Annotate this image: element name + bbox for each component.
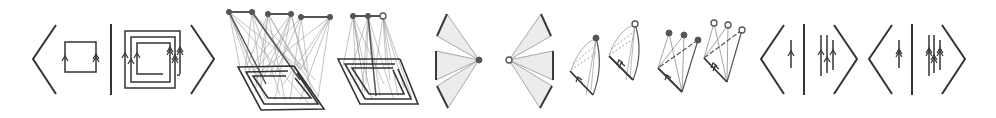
tripod-legs [704, 23, 728, 82]
panel-tripod-filled [658, 30, 701, 92]
right-angle-bracket [834, 25, 857, 94]
tripod-leg-strong [682, 40, 698, 92]
vertex-filled [288, 11, 293, 16]
diagram-canvas [0, 0, 996, 118]
panel-lifted-spiral-3 [226, 9, 332, 110]
panel-bracket-loops [33, 24, 214, 95]
left-angle-bracket [869, 25, 892, 94]
cone-generator [626, 24, 635, 80]
panel-tripod-open [704, 20, 745, 82]
left-angle-bracket [33, 25, 56, 94]
panel-lifted-spiral-2 [338, 13, 418, 104]
projection-lines [229, 12, 330, 105]
vertex-filled [476, 57, 482, 63]
vertex-filled [681, 32, 687, 38]
panel-bracket-lines-double [869, 24, 965, 95]
cone-generator [586, 38, 596, 95]
single-loop [65, 42, 96, 72]
vertex-filled [666, 30, 672, 36]
vertex-filled [265, 11, 270, 16]
tripod-leg-strong [727, 30, 742, 82]
left-angle-bracket [761, 25, 784, 94]
top-vertex-chain [226, 9, 332, 19]
vertex-open [632, 21, 638, 27]
vertex-filled [298, 14, 303, 19]
cone-outline [593, 38, 599, 95]
tripod-legs [658, 33, 684, 92]
vertex-open [739, 27, 745, 33]
vertex-open [725, 22, 731, 28]
top-vertex-chain [350, 13, 386, 19]
vertex-filled [327, 14, 332, 19]
panel-bracket-lines-single [761, 24, 857, 95]
vertex-filled [365, 13, 370, 18]
panel-fan-open [506, 14, 553, 108]
boundary-edge [658, 68, 682, 92]
vertex-open [711, 20, 717, 26]
vertex-open [380, 13, 386, 19]
right-angle-bracket [191, 25, 214, 94]
vertex-filled [593, 35, 599, 41]
panel-cone-filled [570, 35, 599, 95]
vertex-filled [695, 37, 701, 43]
vertex-filled [226, 9, 231, 14]
vertex-open [506, 57, 512, 63]
boundary-edge [704, 58, 727, 82]
right-angle-bracket [942, 25, 965, 94]
dashed-line [704, 30, 742, 58]
panel-fan-filled [436, 14, 482, 108]
vertex-filled [350, 13, 355, 18]
cone-rim [571, 38, 596, 70]
vertex-filled [249, 9, 254, 14]
dashed-line [658, 40, 698, 68]
panel-cone-open [609, 21, 639, 80]
